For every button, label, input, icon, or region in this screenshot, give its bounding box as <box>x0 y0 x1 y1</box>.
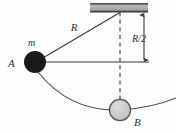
label-point-a: A <box>7 57 15 69</box>
label-half-radius: R/2 <box>131 33 146 44</box>
bob-a-mass <box>24 51 46 73</box>
label-point-b: B <box>134 116 141 128</box>
ceiling-support <box>90 4 148 13</box>
label-mass: m <box>28 37 35 48</box>
string-radius-line <box>36 12 120 62</box>
pendulum-diagram: R R/2 m A B <box>0 0 176 133</box>
bob-b <box>109 99 130 120</box>
label-radius: R <box>70 21 78 33</box>
swing-arc-path <box>38 72 176 110</box>
